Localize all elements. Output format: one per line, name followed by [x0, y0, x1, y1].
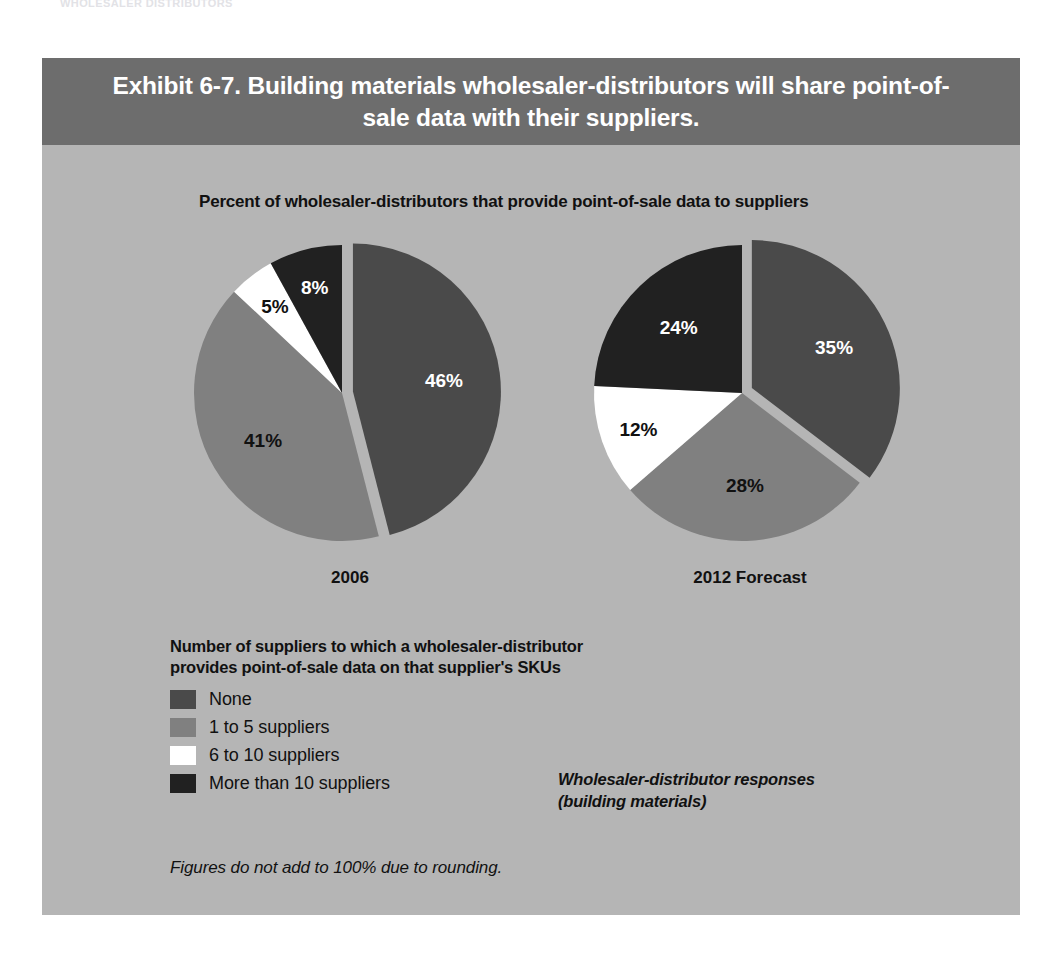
source-note-line-1: Wholesaler-distributor responses	[558, 768, 815, 790]
rounding-footnote: Figures do not add to 100% due to roundi…	[170, 858, 502, 878]
legend: Number of suppliers to which a wholesale…	[170, 636, 600, 799]
pie-slice-label: 46%	[425, 370, 463, 391]
legend-item-1-to-5: 1 to 5 suppliers	[170, 715, 600, 740]
legend-item-more-than-10: More than 10 suppliers	[170, 771, 600, 796]
legend-label-more-than-10: More than 10 suppliers	[209, 773, 390, 794]
pie-slice-label: 28%	[726, 475, 764, 496]
legend-title-line-1: Number of suppliers to which a wholesale…	[170, 636, 600, 657]
legend-label-none: None	[209, 689, 252, 710]
legend-swatch-none	[170, 690, 196, 709]
pie-slice-label: 8%	[301, 277, 329, 298]
pie-slice-label: 35%	[815, 337, 853, 358]
scan-page-header: WHOLESALER DISTRIBUTORS	[60, 0, 233, 9]
legend-swatch-more-than-10	[170, 774, 196, 793]
pie-slice-label: 12%	[619, 419, 657, 440]
pie-slice-label: 5%	[261, 296, 289, 317]
pie-svg-2006: 46%41%5%8%	[180, 228, 520, 568]
pie-slices-2006	[194, 244, 501, 541]
legend-swatch-1-to-5	[170, 718, 196, 737]
pie-slice-label: 41%	[244, 430, 282, 451]
legend-swatch-6-to-10	[170, 746, 196, 765]
source-note: Wholesaler-distributor responses (buildi…	[558, 768, 815, 813]
pie-caption-2012-forecast: 2012 Forecast	[580, 568, 920, 588]
pie-chart-2006: 46%41%5%8% 2006	[180, 228, 520, 578]
legend-title-line-2: provides point-of-sale data on that supp…	[170, 657, 600, 678]
source-note-line-2: (building materials)	[558, 790, 815, 812]
pie-chart-2012-forecast: 35%28%12%24% 2012 Forecast	[580, 228, 920, 578]
legend-label-1-to-5: 1 to 5 suppliers	[209, 717, 329, 738]
pie-svg-2012-forecast: 35%28%12%24%	[580, 228, 920, 568]
exhibit-panel: Exhibit 6-7. Building materials wholesal…	[42, 58, 1020, 915]
legend-label-6-to-10: 6 to 10 suppliers	[209, 745, 339, 766]
legend-item-none: None	[170, 687, 600, 712]
pie-charts-row: 46%41%5%8% 2006 35%28%12%24% 2012 Foreca…	[42, 228, 1020, 578]
legend-title: Number of suppliers to which a wholesale…	[170, 636, 600, 678]
exhibit-title: Exhibit 6-7. Building materials wholesal…	[101, 70, 961, 133]
pie-slice-label: 24%	[660, 317, 698, 338]
exhibit-title-band: Exhibit 6-7. Building materials wholesal…	[42, 58, 1020, 145]
legend-item-6-to-10: 6 to 10 suppliers	[170, 743, 600, 768]
pie-slices-2012-forecast	[594, 240, 900, 541]
pie-caption-2006: 2006	[180, 568, 520, 588]
chart-subtitle: Percent of wholesaler-distributors that …	[199, 192, 809, 212]
